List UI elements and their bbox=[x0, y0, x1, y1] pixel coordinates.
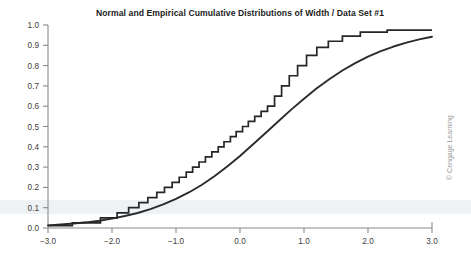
y-axis-tick-label: 0.6 bbox=[28, 102, 40, 111]
x-axis-tick-label: 1.0 bbox=[298, 237, 310, 246]
y-axis-tick-label: 0.1 bbox=[28, 204, 40, 213]
x-axis-tick-label: 3.0 bbox=[426, 237, 438, 246]
x-axis-tick-label: −1.0 bbox=[168, 237, 185, 246]
chart-title: Normal and Empirical Cumulative Distribu… bbox=[96, 8, 384, 18]
y-axis-tick-label: 0.4 bbox=[28, 143, 40, 152]
x-axis-tick-label: 0.0 bbox=[234, 237, 246, 246]
x-axis-tick-label: −2.0 bbox=[104, 237, 121, 246]
copyright-credit: © Cengage Learning bbox=[446, 115, 454, 180]
y-axis-tick-label: 0.0 bbox=[28, 224, 40, 233]
y-axis-tick-label: 0.3 bbox=[28, 163, 40, 172]
y-axis-tick-label: 0.2 bbox=[28, 183, 40, 192]
x-axis-tick-label: −3.0 bbox=[40, 237, 57, 246]
y-axis-tick-label: 0.9 bbox=[28, 41, 40, 50]
chart-figure: Normal and Empirical Cumulative Distribu… bbox=[0, 0, 471, 258]
y-axis-tick-label: 1.0 bbox=[28, 21, 40, 30]
figure-background bbox=[0, 0, 471, 258]
y-axis-tick-label: 0.8 bbox=[28, 62, 40, 71]
background-tint-band bbox=[0, 200, 471, 214]
y-axis-tick-label: 0.7 bbox=[28, 82, 40, 91]
x-axis-tick-label: 2.0 bbox=[362, 237, 374, 246]
y-axis-tick-label: 0.5 bbox=[28, 123, 40, 132]
